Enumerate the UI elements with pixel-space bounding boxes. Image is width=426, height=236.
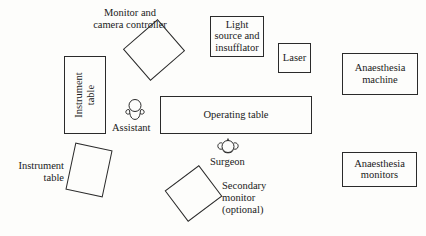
- assistant-person-icon: [124, 97, 146, 123]
- light-source-and-insufflator-label: Light source and insufflator: [211, 19, 263, 54]
- instrument-table-upper-label: Instrument table: [73, 72, 97, 118]
- instrument-table-upper-box: Instrument table: [64, 56, 106, 134]
- monitor-and-camera-controller-label: Monitor and camera controller: [72, 7, 188, 31]
- operating-table-box: Operating table: [160, 96, 312, 134]
- light-source-and-insufflator-box: Light source and insufflator: [210, 16, 264, 57]
- laser-label: Laser: [279, 52, 310, 64]
- operating-table-label: Operating table: [161, 109, 311, 121]
- anaesthesia-machine-box: Anaesthesia machine: [342, 53, 418, 95]
- surgeon-person-icon: [216, 136, 240, 158]
- instrument-table-lower-label: Instrument table: [2, 160, 64, 184]
- assistant-label: Assistant: [112, 122, 166, 134]
- anaesthesia-monitors-box: Anaesthesia monitors: [342, 152, 417, 187]
- instrument-table-lower-box: [65, 143, 112, 198]
- laser-box: Laser: [278, 43, 311, 73]
- secondary-monitor-label: Secondary monitor (optional): [222, 180, 292, 216]
- anaesthesia-monitors-label: Anaesthesia monitors: [343, 158, 416, 182]
- anaesthesia-machine-label: Anaesthesia machine: [343, 62, 417, 86]
- secondary-monitor-box: [165, 165, 223, 222]
- surgeon-label: Surgeon: [210, 156, 264, 168]
- operating-theatre-layout-diagram: Monitor and camera controller Instrument…: [0, 0, 426, 236]
